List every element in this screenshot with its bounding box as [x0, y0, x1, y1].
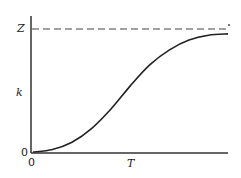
end-mark [228, 24, 230, 26]
data-curve [33, 34, 228, 152]
x-axis-label: T [127, 158, 134, 169]
y-zero-label: 0 [21, 147, 28, 158]
chart-canvas [0, 0, 241, 178]
y-axis-label: k [16, 87, 23, 98]
y-top-label: Z [17, 23, 25, 34]
sigmoid-chart: Z k 0 0 T [0, 0, 241, 178]
x-zero-label: 0 [28, 157, 35, 168]
